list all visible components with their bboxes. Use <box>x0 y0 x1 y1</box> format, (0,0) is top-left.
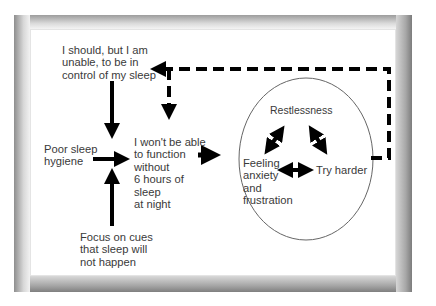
arrow-restlessness-anxiety <box>269 132 280 148</box>
node-feeling-anxiety: Feeling anxiety and frustration <box>243 157 293 207</box>
node-wont-function: I won't be able to function without 6 ho… <box>134 136 206 210</box>
node-focus-on-cues: Focus on cues that sleep will not happen <box>80 231 153 268</box>
node-should-control: I should, but I am unable, to be in cont… <box>62 44 156 81</box>
node-restlessness: Restlessness <box>270 104 332 116</box>
arrow-restlessness-tryharder <box>313 132 323 148</box>
node-poor-sleep-hygiene: Poor sleep hygiene <box>44 143 98 168</box>
node-try-harder: Try harder <box>316 164 367 176</box>
